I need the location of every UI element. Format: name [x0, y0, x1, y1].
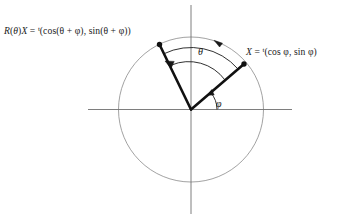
theta-angle-label: θ — [198, 46, 203, 57]
rotated-label-equals: = — [27, 25, 38, 36]
original-label-equals: = — [252, 46, 263, 57]
theta-inner-arc — [171, 62, 225, 80]
rotated-vector-point — [157, 42, 162, 47]
phi-angle-label: φ — [216, 98, 222, 109]
rotated-label-rhs: (cos(θ + φ), sin(θ + φ)) — [40, 25, 131, 36]
original-vector-point — [241, 61, 246, 66]
rotation-diagram-figure: R(θ)X = t(cos(θ + φ), sin(θ + φ)) X = t(… — [0, 0, 343, 219]
rotated-vector-line — [160, 45, 192, 110]
rotated-vector-label: R(θ)X = t(cos(θ + φ), sin(θ + φ)) — [4, 25, 131, 36]
original-vector-label: X = t(cos φ, sin φ) — [246, 46, 317, 57]
theta-outer-arrowhead — [214, 40, 223, 47]
original-label-rhs: (cos φ, sin φ) — [264, 46, 316, 57]
